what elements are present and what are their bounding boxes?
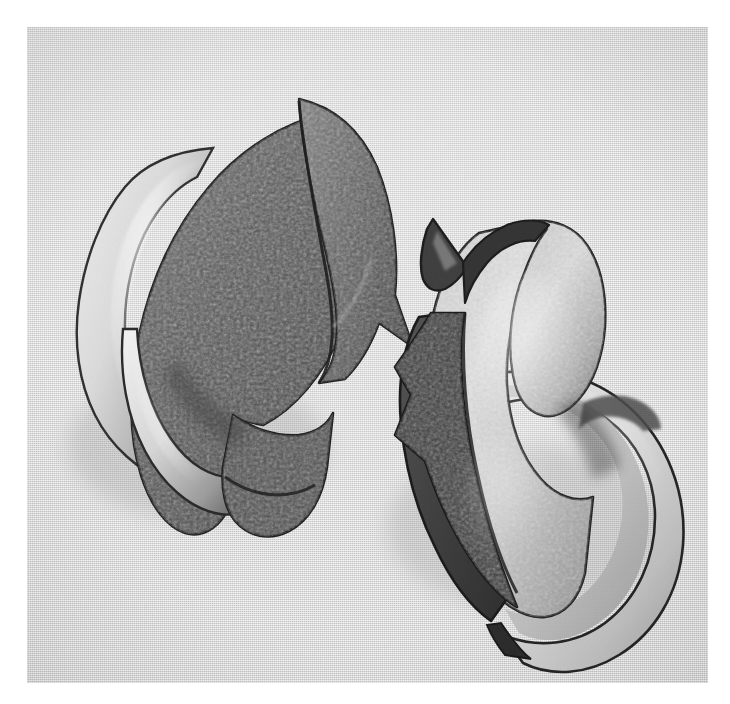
sculpture-scene [27, 27, 708, 683]
scene-svg [27, 27, 708, 683]
photo-plate [27, 27, 708, 683]
photograph-page [0, 0, 730, 704]
photo-grain-overlay [27, 27, 708, 683]
